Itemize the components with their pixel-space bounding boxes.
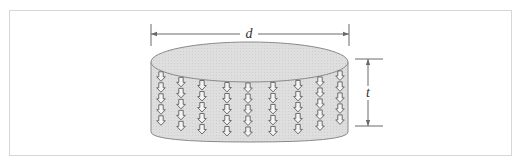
diameter-label: d — [246, 26, 254, 41]
cylinder-top-face — [151, 42, 348, 82]
cylinder-diagram: d t — [0, 0, 521, 162]
